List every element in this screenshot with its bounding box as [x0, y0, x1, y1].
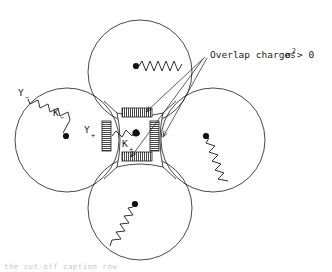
annotation-sigma: σ — [285, 49, 291, 60]
spring-bottom-circle — [110, 207, 133, 246]
k-plus-base: K — [122, 138, 128, 149]
spring-right-circle — [206, 138, 228, 181]
label-y-minus: Y − — [18, 87, 29, 102]
top-nucleus — [133, 63, 139, 69]
overlap-bottom — [122, 152, 152, 161]
annotation-exponent: 2 — [292, 47, 296, 55]
annotation-group: Overlap charges σ 2 > 0 — [210, 47, 314, 60]
center-nucleus — [132, 129, 139, 136]
bottom-nucleus — [132, 201, 138, 207]
right-circle — [161, 88, 265, 192]
bottom-circle — [88, 156, 192, 260]
y-minus-subscript: − — [25, 94, 29, 102]
figure-canvas: Overlap charges σ 2 > 0 Y − K − Y + K + — [0, 0, 332, 272]
diagram-svg: Overlap charges σ 2 > 0 Y − K − Y + K + — [0, 0, 332, 272]
left-nucleus — [63, 133, 69, 139]
annotation-text-part1: Overlap charges — [210, 49, 296, 60]
label-y-plus: Y + — [84, 124, 95, 140]
k-plus-subscript: + — [129, 146, 133, 154]
right-nucleus — [203, 133, 209, 139]
y-plus-base: Y — [84, 124, 90, 135]
y-minus-base: Y — [18, 87, 24, 98]
overlap-top — [122, 108, 152, 117]
y-plus-subscript: + — [91, 132, 95, 140]
overlap-left — [102, 121, 111, 151]
cut-off-caption: the cut-off caption row — [4, 262, 328, 272]
k-minus-subscript: − — [60, 114, 64, 122]
label-k-minus: K − — [53, 107, 64, 122]
spring-top-circle — [139, 61, 182, 71]
k-minus-base: K — [53, 107, 59, 118]
annotation-text-part2: > 0 — [297, 49, 314, 60]
